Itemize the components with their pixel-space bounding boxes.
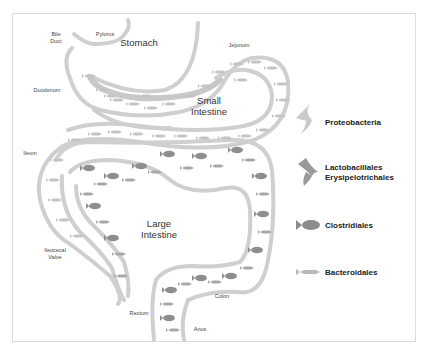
bile-duct-label-line1: Bile [44,31,68,38]
small-intestine-label-line1: Small [186,95,232,106]
bile-duct-label: Bile Duct [44,31,68,45]
anus-label: Anus [188,326,212,333]
legend-clostridiales: Clostridiales [325,221,373,231]
large-intestine-label-line2: Intestine [136,229,182,240]
small-intestine-label: Small Intestine [186,95,232,117]
ileocecal-valve-label: Ileocecal Valve [38,247,72,261]
hawk-icon [298,158,318,186]
bile-duct-label-line2: Duct [44,38,68,45]
legend-bacteroidales: Bacteroidales [325,268,377,278]
fish-icon [296,220,320,230]
small-intestine-label-line2: Intestine [186,106,232,117]
colon-label: Colon [210,293,234,300]
legend-proteobacteria: Proteobacteria [325,118,381,128]
legend-lactobacillales-line2: Erysipelotrichales [325,173,394,183]
legend-icons [296,104,320,275]
large-intestine-label-line1: Large [136,218,182,229]
ileocecal-valve-label-line2: Valve [38,254,72,261]
bird-icon [296,104,312,134]
rectum-label: Rectum [124,310,154,317]
duodenum-label: Duodenum [28,87,66,94]
pylorus-label: Pylorus [90,31,120,38]
legend-lactobacillales: Lactobacillales Erysipelotrichales [325,163,394,183]
small-fish-icon [296,269,320,275]
stomach-label: Stomach [114,37,164,48]
ileum-label: Ileum [18,150,42,157]
ileocecal-valve-label-line1: Ileocecal [38,247,72,254]
large-intestine-label: Large Intestine [136,218,182,240]
legend-lactobacillales-line1: Lactobacillales [325,163,394,173]
jejunum-label: Jejunum [224,42,254,49]
